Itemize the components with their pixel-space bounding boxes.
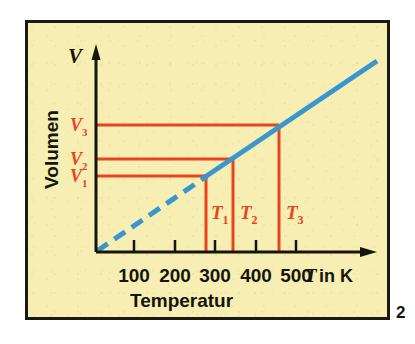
temperature-label-t3-symbol: T: [286, 202, 298, 223]
temperature-label-t1-index: 1: [223, 213, 229, 227]
y-axis-symbol: V: [68, 46, 82, 67]
x-axis-ticks: [134, 240, 296, 252]
x-axis-unit: in K: [319, 267, 353, 285]
temperature-label-t3-index: 3: [298, 213, 304, 227]
x-tick-label-100: 100: [111, 266, 157, 285]
temperature-label-t2: T2: [240, 203, 258, 226]
temperature-label-t1: T1: [211, 203, 229, 226]
temperature-label-t2-index: 2: [252, 213, 258, 227]
x-tick-label-300: 300: [192, 266, 238, 285]
figure-root: V Volumen V3 V2 V1 T1 T2 T3 100 200 300 …: [0, 0, 415, 344]
volume-label-v1-symbol: V: [70, 166, 82, 186]
curve-extrapolated-dashed: [97, 176, 207, 251]
volume-label-v3-index: 3: [82, 126, 88, 138]
temperature-label-t1-symbol: T: [211, 202, 223, 223]
x-axis-symbol: T: [305, 266, 317, 285]
y-axis-title: Volumen: [42, 90, 61, 210]
x-axis-arrowhead: [360, 247, 377, 257]
curve-measured-solid: [205, 61, 377, 177]
temperature-label-t2-symbol: T: [240, 202, 252, 223]
volume-label-v1: V1: [70, 167, 88, 189]
volume-label-v3-symbol: V: [70, 115, 82, 135]
temperature-label-t3: T3: [286, 203, 304, 226]
page-number: 2: [396, 303, 405, 323]
volume-label-v3: V3: [70, 116, 88, 138]
volume-label-v1-index: 1: [82, 177, 88, 189]
y-axis-arrowhead: [92, 44, 101, 60]
x-axis-title: Temperatur: [130, 291, 233, 310]
